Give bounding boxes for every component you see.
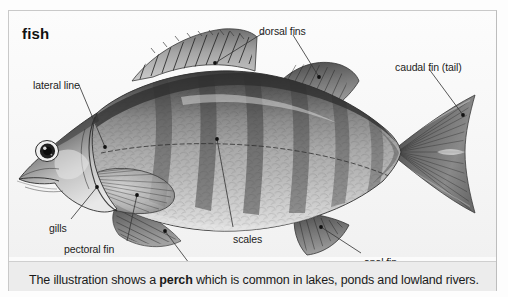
leader-anal-fin [321,227,361,253]
leader-lateral-line [79,85,105,147]
dot-dorsal-second [317,75,321,79]
caption-text: The illustration shows a perch which is … [29,273,479,287]
caption-before: The illustration shows a [29,273,159,287]
label-pectoral-fin: pectoral fin [64,243,114,255]
dot-scales [215,137,219,141]
illustration-card: fish lateral line dorsal fins caudal fin… [8,10,497,291]
dot-caudal-fin [461,113,465,117]
leader-scales [217,139,233,227]
dot-lateral-line [103,145,107,149]
label-lateral-line: lateral line [33,79,80,91]
leader-pectoral-fin [127,195,137,241]
label-dorsal-fins: dorsal fins [259,25,306,37]
dot-anal-fin [319,225,323,229]
leader-dorsal-first [215,33,263,63]
leader-dorsal-second [293,35,319,77]
caption-species: perch [159,273,192,287]
dot-dorsal-first [213,61,217,65]
label-caudal-fin: caudal fin (tail) [395,61,462,73]
label-gills: gills [49,222,67,234]
page-title: fish [22,25,49,42]
leader-caudal-fin [429,69,463,115]
illustration-page: fish lateral line dorsal fins caudal fin… [0,0,508,297]
dot-gills [95,185,99,189]
dot-pectoral-fin [135,193,139,197]
label-scales: scales [233,233,262,245]
caption-after: which is common in lakes, ponds and lowl… [193,273,479,287]
leader-gills [71,187,97,219]
leader-ventral-fins [165,231,189,263]
dot-ventral-fins [163,229,167,233]
